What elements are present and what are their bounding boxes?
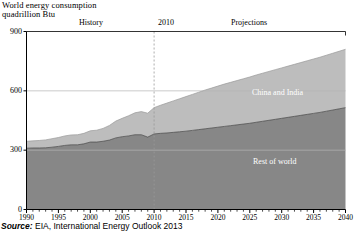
y-axis-tick-label: 300 <box>0 145 22 154</box>
chart-svg <box>0 0 354 234</box>
x-axis-tick-label: 2010 <box>139 213 169 222</box>
chart-figure: World energy consumption quadrillion Btu… <box>0 0 354 234</box>
source-prefix: Source: <box>1 221 33 231</box>
x-axis-tick-label: 2030 <box>267 213 297 222</box>
source-text: EIA, International Energy Outlook 2013 <box>33 221 183 231</box>
x-axis-tick-label: 2000 <box>75 213 105 222</box>
x-axis-tick-label: 2020 <box>203 213 233 222</box>
x-axis-tick-label: 2015 <box>171 213 201 222</box>
source-note: Source: EIA, International Energy Outloo… <box>1 221 182 231</box>
y-axis-tick-label: 600 <box>0 86 22 95</box>
x-axis-tick-label: 1995 <box>43 213 73 222</box>
x-axis-tick-label: 2040 <box>331 213 354 222</box>
y-axis-tick-label: 900 <box>0 27 22 36</box>
x-axis-tick-label: 2005 <box>107 213 137 222</box>
x-axis-tick-label: 2025 <box>235 213 265 222</box>
x-axis-tick-label: 1990 <box>12 213 42 222</box>
plot-area <box>0 0 354 234</box>
series-label-china-and-india: China and India <box>252 88 303 97</box>
x-axis-tick-label: 2035 <box>299 213 329 222</box>
series-label-rest-of-world: Rest of world <box>253 157 297 166</box>
